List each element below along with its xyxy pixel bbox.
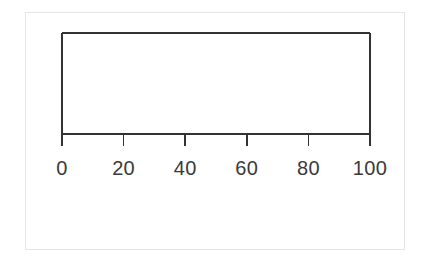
x-tick-label-0: 0	[56, 158, 67, 178]
x-tick-label-80: 80	[297, 158, 320, 178]
x-tick-label-20: 20	[112, 158, 135, 178]
x-tick-label-60: 60	[235, 158, 258, 178]
x-tick-label-40: 40	[174, 158, 197, 178]
chart-svg	[0, 0, 435, 270]
chart-figure	[0, 0, 435, 270]
x-axis-ticks	[62, 134, 370, 146]
x-tick-label-100: 100	[353, 158, 387, 178]
plot-area-background	[62, 33, 370, 134]
